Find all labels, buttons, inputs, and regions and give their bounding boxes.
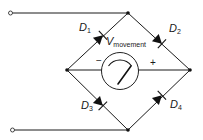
bottom-input-terminal — [11, 128, 15, 132]
diode-d1-icon — [92, 31, 107, 46]
top-node — [126, 11, 130, 15]
bottom-node — [126, 128, 130, 132]
meter-positive-sign: + — [150, 57, 156, 68]
label-d4: D4 — [170, 98, 182, 111]
meter-negative-sign: − — [96, 55, 102, 66]
label-d3: D3 — [81, 99, 93, 112]
right-node — [188, 68, 192, 72]
meter-movement-icon — [102, 53, 139, 90]
label-v-movement: Vmovement — [106, 35, 146, 48]
left-node — [65, 68, 69, 72]
bridge-rectifier-diagram: D1 D2 D3 D4 Vmovement − + — [0, 0, 203, 140]
diode-d4-icon — [151, 91, 166, 106]
label-d1: D1 — [79, 21, 91, 34]
label-d2: D2 — [169, 22, 181, 35]
top-input-terminal — [9, 11, 13, 15]
